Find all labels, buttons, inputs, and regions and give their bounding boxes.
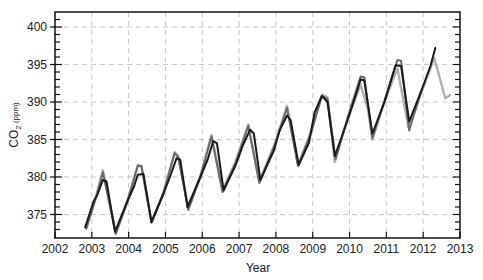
x-tick-label: 2004 <box>115 242 142 256</box>
y-axis-title-unit: (ppm) <box>11 102 20 125</box>
x-tick-label: 2011 <box>373 242 399 256</box>
y-tick-label: 395 <box>27 58 47 72</box>
x-tick-label: 2003 <box>78 242 105 256</box>
x-tick-label: 2013 <box>447 242 474 256</box>
x-tick-label: 2005 <box>152 242 179 256</box>
x-tick-label: 2012 <box>410 242 437 256</box>
x-tick-label: 2007 <box>226 242 253 256</box>
x-tick-label: 2009 <box>299 242 326 256</box>
y-tick-label: 390 <box>27 95 47 109</box>
x-tick-label: 2008 <box>263 242 290 256</box>
y-tick-label: 400 <box>27 20 47 34</box>
y-tick-label: 385 <box>27 133 47 147</box>
x-tick-label: 2010 <box>336 242 363 256</box>
y-tick-label: 375 <box>27 208 47 222</box>
y-tick-label: 380 <box>27 170 47 184</box>
co2-line-chart: 2002200320042005200620072008200920102011… <box>0 0 483 280</box>
x-axis-title: Year <box>246 261 270 275</box>
x-tick-label: 2002 <box>42 242 69 256</box>
x-tick-label: 2006 <box>189 242 216 256</box>
y-axis-title-main: CO <box>7 130 21 148</box>
